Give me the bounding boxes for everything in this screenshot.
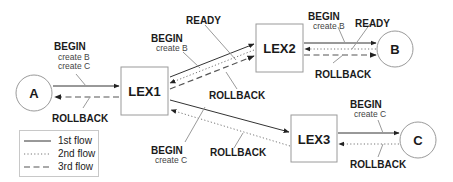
legend: 1st flow 2nd flow 3rd flow [20, 131, 99, 177]
svg-text:create C: create C [354, 109, 386, 119]
label-a-lex1-begin: BEGIN create B create C [54, 41, 90, 71]
node-c: C [400, 122, 436, 158]
node-lex1-label: LEX1 [128, 84, 161, 99]
node-lex3: LEX3 [291, 115, 337, 162]
node-c-label: C [413, 133, 423, 148]
label-lex2-b-begin: BEGIN create B [308, 11, 345, 31]
svg-text:create C: create C [58, 61, 90, 71]
svg-text:BEGIN: BEGIN [54, 41, 86, 52]
label-lex1-lex2-ready: READY [186, 15, 221, 26]
label-lex1-lex2-begin: BEGIN create B [151, 33, 188, 53]
node-lex1: LEX1 [121, 67, 168, 115]
label-lex2-b-rollback: ROLLBACK [315, 69, 372, 80]
node-lex3-label: LEX3 [298, 132, 331, 147]
svg-text:2nd flow: 2nd flow [58, 148, 96, 159]
label-a-lex1-rollback: ROLLBACK [52, 113, 109, 124]
svg-text:create B: create B [313, 21, 345, 31]
svg-text:create B: create B [156, 43, 188, 53]
edge-lex2-lex1-ready [170, 50, 254, 83]
node-b: B [377, 31, 413, 67]
label-lex3-c-rollback: ROLLBACK [350, 159, 407, 170]
svg-text:1st flow: 1st flow [58, 135, 93, 146]
edge-lex3-lex1-rollback [171, 110, 290, 146]
svg-text:create C: create C [155, 155, 187, 165]
node-lex2: LEX2 [256, 24, 303, 72]
label-lex3-c-begin: BEGIN create C [350, 99, 386, 119]
node-b-label: B [390, 42, 399, 57]
transaction-flow-diagram: A LEX1 LEX2 LEX3 B C [0, 0, 453, 182]
node-lex2-label: LEX2 [263, 41, 296, 56]
label-lex1-lex3-begin: BEGIN create C [151, 145, 187, 165]
edge-lex1-lex3-begin [170, 100, 289, 132]
node-a-label: A [29, 86, 39, 101]
label-lex1-lex3-rollback: ROLLBACK [210, 147, 267, 158]
label-lex1-lex2-rollback: ROLLBACK [209, 90, 266, 101]
node-a: A [16, 75, 52, 111]
label-lex2-b-ready: READY [355, 18, 390, 29]
svg-text:3rd flow: 3rd flow [58, 161, 94, 172]
